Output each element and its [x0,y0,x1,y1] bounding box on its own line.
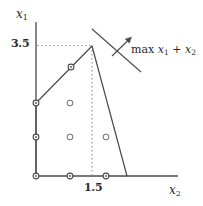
lattice-point-origin-dot [35,175,37,177]
x-axis-label-text: x [169,183,176,197]
linear-program-plot [0,0,203,206]
lattice-point-2-1 [103,134,109,140]
lattice-point-0-1-dot [35,136,37,138]
objective-term1-subscript: 1 [164,48,169,57]
y-axis-label: x1 [16,8,28,22]
objective-label: max x1 + x2 [131,44,196,56]
x-tick-label-1-5: 1.5 [84,182,102,193]
objective-max-text: max [131,43,154,56]
lattice-point-1-1 [67,134,73,140]
y-tick-label-3-5: 3.5 [11,38,29,49]
lattice-point-0-2-dot [35,102,37,104]
lattice-point-1-3-dot [70,66,72,68]
objective-direction-arrow [112,37,132,56]
y-axis-label-text: x [16,7,23,21]
feasible-region-boundary [36,46,127,176]
lattice-point-1-2 [67,100,73,106]
y-axis-label-subscript: 1 [23,13,28,22]
lattice-point-group [33,64,109,179]
objective-term2-subscript: 2 [191,48,196,57]
objective-plus: + [172,43,181,56]
lattice-point-1-0-dot [69,175,71,177]
x-axis-label: x2 [169,184,181,198]
diagram-canvas: x1 x2 3.5 1.5 max x1 + x2 [0,0,203,206]
lattice-point-2-0-dot [105,175,107,177]
x-axis-label-subscript: 2 [176,189,181,198]
